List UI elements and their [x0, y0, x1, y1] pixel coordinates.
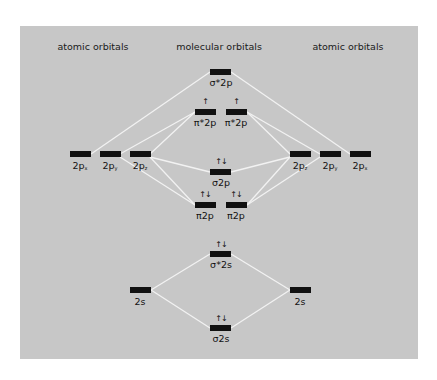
electron-arrows-sigma-2p: ↑↓: [215, 158, 226, 166]
mo-label-pi-2p-a: π2p: [196, 211, 214, 221]
orbital-bar-left-2py: [100, 151, 121, 157]
orbital-bar-left-2px: [70, 151, 91, 157]
orbital-bar-right-2px: [350, 151, 371, 157]
mo-bar-pi-star-2p-b: [226, 109, 247, 115]
orbital-label-left-2pz: 2pz: [133, 161, 148, 171]
electron-arrows-sigma-star-2s: ↑↓: [215, 241, 226, 249]
header-atomic-right: atomic orbitals: [312, 41, 383, 52]
mo-label-pi-star-2p-a: π*2p: [194, 118, 217, 128]
orbital-label-left-2px: 2px: [72, 161, 87, 171]
orbital-label-right-2py: 2py: [322, 161, 337, 171]
mo-bar-pi-star-2p-a: [195, 109, 216, 115]
orbital-label-right-2pz: 2pz: [293, 161, 308, 171]
orbital-bar-right-2py: [320, 151, 341, 157]
mo-bar-pi-2p-b: [226, 202, 247, 208]
mo-bar-sigma-2s: [210, 325, 231, 331]
electron-arrows-pi-star-2p-a: ↑: [202, 98, 208, 106]
electron-arrows-sigma-2s: ↑↓: [215, 315, 226, 323]
electron-arrows-pi-star-2p-b: ↑: [233, 98, 239, 106]
mo-label-sigma-2s: σ2s: [212, 334, 229, 344]
orbital-bar-left-2s: [130, 287, 151, 293]
orbital-bar-right-2s: [290, 287, 311, 293]
mo-bar-sigma-star-2s: [210, 251, 231, 257]
mo-label-sigma-2p: σ2p: [212, 178, 230, 188]
mo-label-pi-star-2p-b: π*2p: [225, 118, 248, 128]
diagram-panel: [20, 26, 418, 359]
mo-bar-sigma-2p: [210, 169, 231, 175]
mo-label-sigma-star-2p: σ*2p: [210, 78, 233, 88]
mo-bar-sigma-star-2p: [210, 69, 231, 75]
orbital-label-left-2py: 2py: [102, 161, 117, 171]
orbital-label-right-2px: 2px: [352, 161, 367, 171]
header-atomic-left: atomic orbitals: [57, 41, 128, 52]
orbital-bar-left-2pz: [130, 151, 151, 157]
orbital-label-left-2s: 2s: [135, 297, 146, 307]
mo-bar-pi-2p-a: [195, 202, 216, 208]
orbital-label-right-2s: 2s: [295, 297, 306, 307]
mo-label-sigma-star-2s: σ*2s: [210, 260, 232, 270]
orbital-bar-right-2pz: [290, 151, 311, 157]
electron-arrows-pi-2p-b: ↑↓: [230, 191, 241, 199]
mo-label-pi-2p-b: π2p: [227, 211, 245, 221]
header-molecular: molecular orbitals: [176, 41, 262, 52]
electron-arrows-pi-2p-a: ↑↓: [199, 191, 210, 199]
